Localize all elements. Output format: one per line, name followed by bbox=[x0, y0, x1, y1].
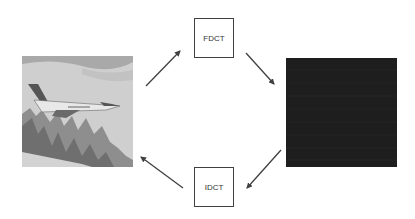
arrow-image-to-fdct bbox=[146, 51, 180, 86]
arrows-layer bbox=[0, 0, 415, 219]
arrow-idct-to-image bbox=[141, 157, 183, 188]
arrow-dct-to-idct bbox=[247, 150, 281, 188]
arrow-fdct-to-dct bbox=[246, 53, 274, 84]
